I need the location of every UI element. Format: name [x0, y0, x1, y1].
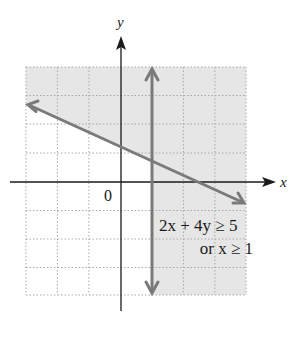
inequality-graph: y x 0 2x + 4y ≥ 5 or x ≥ 1: [0, 0, 297, 337]
x-axis-label: x: [279, 174, 287, 190]
inequality-line-1: 2x + 4y ≥ 5: [159, 216, 237, 235]
inequality-line-2: or x ≥ 1: [200, 239, 253, 258]
shaded-region: [26, 67, 246, 295]
origin-label: 0: [104, 187, 112, 204]
y-axis-label: y: [115, 14, 124, 30]
